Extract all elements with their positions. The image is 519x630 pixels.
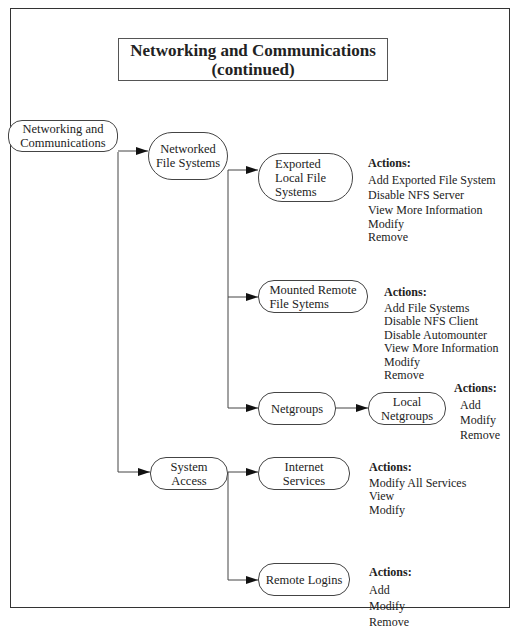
action-item[interactable]: Disable Automounter	[384, 329, 499, 343]
action-item[interactable]: View More Information	[384, 342, 499, 356]
action-item[interactable]: Add File Systems	[384, 302, 499, 316]
node-networked-file-systems[interactable]: Networked File Systems	[148, 132, 228, 180]
node-mounted-remote-file-systems[interactable]: Mounted Remote File Sytems	[258, 280, 368, 313]
action-item[interactable]: Remove	[369, 614, 412, 630]
action-item[interactable]: View More Information	[368, 203, 496, 218]
node-local-netgroups[interactable]: Local Netgroups	[368, 392, 446, 425]
actions-header: Actions:	[384, 286, 499, 300]
node-label: Systems	[275, 185, 326, 199]
node-label: File Sytems	[269, 297, 356, 311]
node-remote-logins[interactable]: Remote Logins	[258, 563, 350, 596]
actions-internet-services: Actions: Modify All Services View Modify	[369, 461, 466, 517]
actions-header: Actions:	[369, 461, 466, 475]
node-label: File Systems	[156, 156, 220, 170]
node-netgroups[interactable]: Netgroups	[258, 392, 336, 425]
actions-header: Actions:	[369, 566, 412, 580]
action-item[interactable]: Remove	[368, 231, 496, 245]
node-label: Networking and	[20, 122, 105, 136]
actions-exported-fs: Actions: Add Exported File System Disabl…	[368, 157, 496, 245]
node-label: Exported	[275, 157, 326, 171]
node-label: Communications	[20, 136, 105, 150]
node-label: Internet	[283, 460, 325, 474]
node-label: Local	[381, 395, 433, 409]
actions-mounted-fs: Actions: Add File Systems Disable NFS Cl…	[384, 286, 499, 383]
node-label: Remote Logins	[266, 573, 343, 587]
action-item[interactable]: Modify	[368, 218, 496, 232]
action-item[interactable]: Modify	[384, 356, 499, 370]
node-internet-services[interactable]: Internet Services	[258, 457, 350, 490]
node-label: Mounted Remote	[269, 283, 356, 297]
action-item[interactable]: Remove	[454, 428, 500, 443]
node-label: Access	[171, 474, 208, 488]
action-item[interactable]: Modify	[369, 598, 412, 614]
action-item[interactable]: Add	[454, 398, 500, 413]
node-label: Local File	[275, 171, 326, 185]
action-item[interactable]: Disable NFS Client	[384, 315, 499, 329]
actions-remote-logins: Actions: Add Modify Remove	[369, 566, 412, 630]
node-label: Netgroups	[381, 409, 433, 423]
node-label: System	[171, 460, 208, 474]
action-item[interactable]: Disable NFS Server	[368, 188, 496, 203]
node-label: Netgroups	[271, 402, 323, 416]
action-item[interactable]: Modify	[454, 413, 500, 428]
action-item[interactable]: Add	[369, 582, 412, 598]
actions-header: Actions:	[454, 382, 500, 396]
action-item[interactable]: Add Exported File System	[368, 173, 496, 188]
action-item[interactable]: Modify	[369, 504, 466, 518]
action-item[interactable]: View	[369, 490, 466, 504]
action-item[interactable]: Modify All Services	[369, 477, 466, 491]
node-exported-local-file-systems[interactable]: Exported Local File Systems	[258, 153, 353, 202]
node-label: Services	[283, 474, 325, 488]
actions-header: Actions:	[368, 157, 496, 171]
node-system-access[interactable]: System Access	[150, 457, 228, 490]
node-label: Networked	[156, 142, 220, 156]
node-networking-communications[interactable]: Networking and Communications	[8, 120, 118, 152]
actions-local-netgroups: Actions: Add Modify Remove	[454, 382, 500, 443]
